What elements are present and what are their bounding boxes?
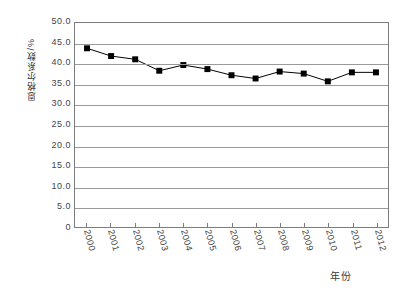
- data-point-marker: [204, 66, 210, 72]
- y-axis-tick-labels: 50.045.040.035.030.025.020.015.010.05.00: [0, 22, 71, 228]
- x-axis-title: 年份: [330, 268, 352, 283]
- x-axis-tick-mark: [353, 223, 354, 228]
- data-point-marker: [132, 56, 138, 62]
- data-point-marker: [253, 76, 259, 82]
- x-axis-tick-mark: [86, 223, 87, 228]
- x-axis-tick-label: 2001: [106, 228, 121, 252]
- y-axis-tick-label: 50.0: [1, 17, 71, 26]
- gridline: [75, 188, 388, 189]
- x-axis-tick-label: 2002: [131, 228, 146, 252]
- data-point-marker: [84, 45, 90, 51]
- gridline: [75, 105, 388, 106]
- gridline: [75, 126, 388, 127]
- y-axis-tick-label: 15.0: [1, 161, 71, 170]
- y-axis-tick-label: 45.0: [1, 38, 71, 47]
- y-axis-tick-label: 0: [1, 223, 71, 232]
- y-axis-tick-label: 35.0: [1, 79, 71, 88]
- x-axis-tick-mark: [377, 223, 378, 228]
- series-overlay: [75, 23, 388, 227]
- x-axis-tick-label: 2005: [203, 228, 218, 252]
- x-axis-tick-label: 2000: [82, 228, 97, 252]
- x-axis-tick-label: 2007: [252, 228, 267, 252]
- y-axis-tick-label: 30.0: [1, 99, 71, 108]
- y-axis-tick-label: 25.0: [1, 120, 71, 129]
- x-axis-tick-mark: [183, 223, 184, 228]
- x-axis-tick-label: 2010: [324, 228, 339, 252]
- x-axis-tick-mark: [207, 223, 208, 228]
- y-axis-tick-label: 20.0: [1, 141, 71, 150]
- data-point-marker: [349, 69, 355, 75]
- x-axis-tick-mark: [304, 223, 305, 228]
- x-axis-tick-mark: [110, 223, 111, 228]
- gridline: [75, 147, 388, 148]
- y-axis-tick-label: 40.0: [1, 58, 71, 67]
- data-point-marker: [325, 78, 331, 84]
- x-axis-tick-label: 2006: [228, 228, 243, 252]
- data-point-marker: [156, 68, 162, 74]
- data-point-marker: [301, 71, 307, 77]
- gridline: [75, 167, 388, 168]
- x-axis-tick-mark: [135, 223, 136, 228]
- x-axis-tick-mark: [159, 223, 160, 228]
- gridline: [75, 44, 388, 45]
- data-point-marker: [229, 72, 235, 78]
- engel-coefficient-line-chart: 恩格尔系数/% 50.045.040.035.030.025.020.015.0…: [0, 0, 402, 292]
- x-axis-tick-label: 2004: [179, 228, 194, 252]
- x-axis-tick-mark: [280, 223, 281, 228]
- x-axis-tick-mark: [232, 223, 233, 228]
- x-axis-tick-label: 2012: [373, 228, 388, 252]
- data-point-marker: [277, 69, 283, 75]
- gridline: [75, 64, 388, 65]
- data-point-marker: [108, 53, 114, 59]
- plot-area: [74, 22, 389, 228]
- y-axis-tick-label: 5.0: [1, 202, 71, 211]
- x-axis-tick-label: 2008: [276, 228, 291, 252]
- x-axis-tick-mark: [328, 223, 329, 228]
- x-axis-tick-mark: [256, 223, 257, 228]
- x-axis-tick-label: 2011: [349, 228, 364, 251]
- x-axis-tick-label: 2009: [300, 228, 315, 252]
- gridline: [75, 85, 388, 86]
- y-axis-tick-label: 10.0: [1, 182, 71, 191]
- data-point-marker: [373, 69, 379, 75]
- x-axis-tick-label: 2003: [155, 228, 170, 252]
- gridline: [75, 208, 388, 209]
